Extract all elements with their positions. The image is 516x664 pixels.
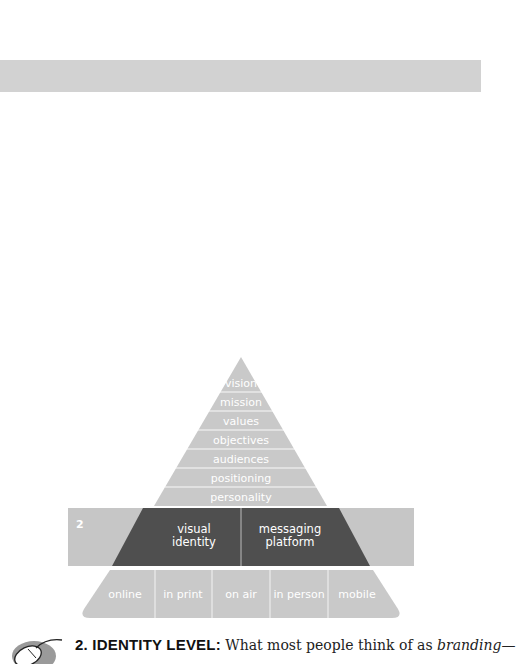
pyramid-row-audiences: audiences [213, 453, 269, 466]
channel-on-air: on air [225, 588, 257, 601]
pyramid-row-objectives: objectives [213, 434, 269, 447]
footer-heading: 2. IDENTITY LEVEL: [75, 636, 221, 653]
channel-mobile: mobile [338, 588, 376, 601]
messaging-platform-line1: messaging [259, 522, 321, 536]
pyramid-row-mission: mission [220, 396, 262, 409]
footer-text-italic: branding [437, 637, 501, 653]
pyramid-row-personality: personality [210, 491, 272, 504]
footer-text-before: What most people think of as [221, 637, 437, 653]
mouse-icon [8, 634, 64, 664]
level-number: 2 [76, 518, 84, 531]
messaging-platform-line2: platform [266, 535, 315, 549]
pyramid-row-values: values [223, 415, 259, 428]
channel-online: online [108, 588, 142, 601]
pyramid-row-vision: vision [225, 377, 257, 390]
footer-text-after: — [502, 637, 516, 653]
pyramid-row-positioning: positioning [211, 472, 272, 485]
channel-in-person: in person [273, 588, 324, 601]
footer: 2. IDENTITY LEVEL: What most people thin… [0, 620, 481, 661]
channel-in-print: in print [163, 588, 203, 601]
visual-identity-line2: identity [172, 535, 216, 549]
visual-identity-line1: visual [177, 522, 211, 536]
footer-caption: 2. IDENTITY LEVEL: What most people thin… [75, 636, 516, 653]
